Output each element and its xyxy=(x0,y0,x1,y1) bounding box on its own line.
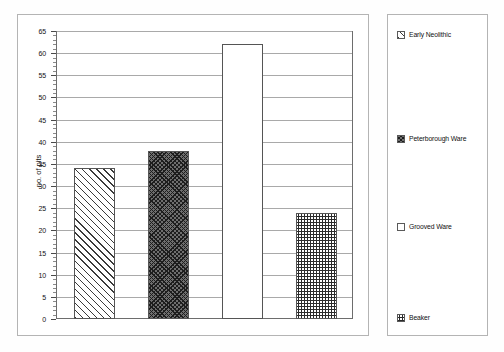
y-axis-tick-label: 40 xyxy=(39,138,46,145)
y-axis-tick-label: 10 xyxy=(39,271,46,278)
gridline xyxy=(57,31,352,32)
gridline xyxy=(57,142,352,143)
legend-label: Beaker xyxy=(409,314,430,322)
y-axis-tick-label: 65 xyxy=(39,28,46,35)
gridline xyxy=(57,164,352,165)
gridline xyxy=(57,75,352,76)
legend-item-early-neolithic[interactable]: Early Neolithic xyxy=(397,31,451,39)
legend-item-peterborough-ware[interactable]: Peterborough Ware xyxy=(397,135,466,143)
legend-swatch-icon xyxy=(397,223,405,231)
y-axis-major-tick xyxy=(51,319,56,320)
chart-panel: no. of pits 05101520253035404550556065 xyxy=(17,14,369,336)
gridline xyxy=(57,97,352,98)
y-axis-tick-label: 5 xyxy=(42,293,46,300)
legend-swatch-icon xyxy=(397,314,405,322)
y-axis-tick-label: 15 xyxy=(39,249,46,256)
legend: Early NeolithicPeterborough WareGrooved … xyxy=(387,14,488,336)
y-axis-tick-label: 55 xyxy=(39,72,46,79)
chart-page: no. of pits 05101520253035404550556065 E… xyxy=(0,0,504,352)
bar-grooved-ware xyxy=(222,44,263,319)
y-axis-tick-label: 25 xyxy=(39,205,46,212)
legend-label: Grooved Ware xyxy=(409,223,452,231)
legend-item-beaker[interactable]: Beaker xyxy=(397,314,430,322)
y-axis-tick-labels: 05101520253035404550556065 xyxy=(18,31,46,319)
bar-peterborough-ware xyxy=(148,151,189,319)
bar-beaker xyxy=(296,213,337,319)
legend-swatch-icon xyxy=(397,135,405,143)
y-axis-tick-label: 0 xyxy=(42,316,46,323)
gridline xyxy=(57,53,352,54)
legend-item-grooved-ware[interactable]: Grooved Ware xyxy=(397,223,452,231)
y-axis-tick-label: 20 xyxy=(39,227,46,234)
y-axis-tick-label: 35 xyxy=(39,160,46,167)
y-axis-tick-label: 30 xyxy=(39,183,46,190)
plot-area xyxy=(56,31,353,319)
y-axis-tick-label: 60 xyxy=(39,50,46,57)
y-axis-tick-label: 50 xyxy=(39,94,46,101)
legend-label: Early Neolithic xyxy=(409,31,451,39)
legend-swatch-icon xyxy=(397,31,405,39)
y-axis-tick-label: 45 xyxy=(39,116,46,123)
bar-early-neolithic xyxy=(74,168,115,319)
gridline xyxy=(57,120,352,121)
legend-label: Peterborough Ware xyxy=(409,135,466,143)
